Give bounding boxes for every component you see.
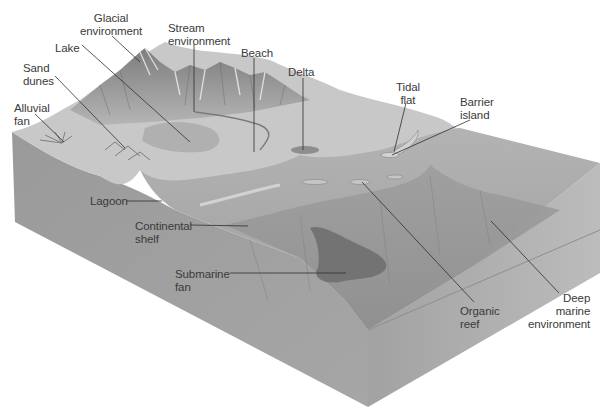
label-organic-reef: Organic reef xyxy=(460,305,500,331)
label-sand-dunes: Sand dunes xyxy=(23,62,54,88)
label-continental-shelf: Continental shelf xyxy=(135,220,192,246)
label-barrier-island: Barrier island xyxy=(460,96,494,122)
label-delta: Delta xyxy=(288,66,314,79)
delta-shape xyxy=(291,146,319,154)
label-lake: Lake xyxy=(55,42,80,55)
label-tidal-flat: Tidal flat xyxy=(396,81,420,107)
label-lagoon: Lagoon xyxy=(90,195,128,208)
label-glacial-environment: Glacial environment xyxy=(80,12,142,38)
label-submarine-fan: Submarine fan xyxy=(175,268,230,294)
label-beach: Beach xyxy=(241,47,273,60)
leader-glacial xyxy=(112,36,140,62)
label-deep-marine-environment: Deep marine environment xyxy=(528,292,590,331)
depositional-environments-illustration xyxy=(0,0,616,417)
label-stream-environment: Stream environment xyxy=(168,22,230,48)
label-alluvial-fan: Alluvial fan xyxy=(14,102,50,128)
block-diagram: Glacial environment Stream environment L… xyxy=(0,0,616,417)
